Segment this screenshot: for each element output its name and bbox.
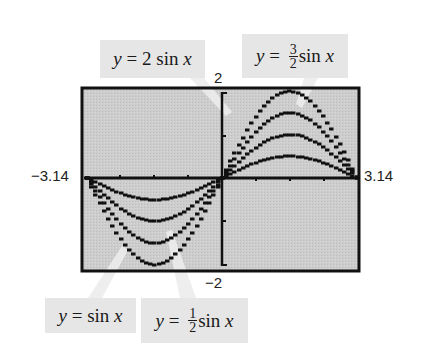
label-2-sin-x: y = 2 sin x (100, 40, 205, 78)
label-var-x: x (225, 310, 233, 332)
fraction-denominator: 2 (189, 321, 196, 334)
label-var-x: x (326, 45, 334, 67)
label-fn: sin (299, 45, 326, 67)
label-var-x: x (183, 48, 191, 70)
fraction-one-half: 12 (188, 307, 197, 334)
fraction-three-halves: 32 (289, 43, 298, 70)
label-eq: = (164, 310, 184, 332)
label-sin-x: y = sin x (45, 298, 136, 333)
y-min-label: −2 (205, 274, 222, 291)
fraction-numerator: 1 (188, 307, 197, 321)
label-var-y: y (58, 305, 66, 327)
x-min-label: −3.14 (31, 167, 69, 184)
label-var-y: y (256, 45, 264, 67)
fraction-numerator: 3 (289, 43, 298, 57)
label-three-halves-sin-x: y = 32sin x (242, 34, 348, 78)
label-eq: = sin (67, 305, 114, 327)
y-max-label: 2 (214, 69, 222, 86)
label-half-sin-x: y = 12sin x (141, 298, 248, 343)
fraction-denominator: 2 (290, 57, 297, 70)
label-eq: = 2 sin (122, 48, 183, 70)
label-var-y: y (113, 48, 121, 70)
label-var-y: y (155, 310, 163, 332)
label-fn: sin (198, 310, 225, 332)
label-eq: = (264, 45, 284, 67)
x-max-label: 3.14 (364, 167, 393, 184)
label-var-x: x (114, 305, 122, 327)
